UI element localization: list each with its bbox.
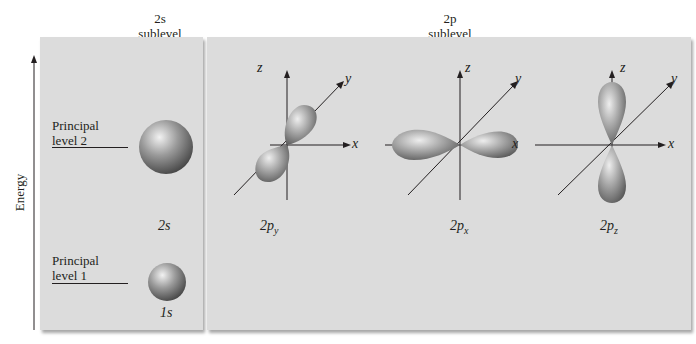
orbital-2px-lobe-right — [460, 132, 518, 158]
orbital-2px-lobe-left — [392, 130, 460, 160]
axis-label-x-py: x — [352, 136, 358, 152]
orbital-2py-label: 2py — [260, 218, 278, 236]
orbital-2py-diagram — [220, 60, 360, 210]
orbital-2py-lobe-back — [285, 105, 317, 145]
axis-label-x-pz: x — [668, 136, 674, 152]
axis-label-y-py: y — [345, 71, 351, 87]
axis-label-y-pz: y — [671, 71, 677, 87]
energy-axis-label: Energy — [12, 168, 27, 218]
orbital-2px-label: 2px — [450, 218, 468, 236]
orbital-2s-label: 2s — [158, 218, 170, 234]
orbital-2pz-diagram — [530, 60, 690, 210]
orbital-2px-diagram — [380, 60, 530, 210]
orbital-2pz-label: 2pz — [600, 218, 618, 236]
axis-label-z-pz: z — [620, 60, 625, 76]
axis-label-z-px: z — [465, 60, 470, 76]
level-2-line — [52, 147, 128, 148]
orbital-2s-sphere — [138, 119, 194, 175]
orbital-2pz-lobe-bottom — [598, 145, 626, 203]
level-1-label: Principal level 1 — [52, 253, 99, 283]
level-2-label: Principal level 2 — [52, 118, 99, 148]
orbital-1s-label: 1s — [160, 305, 172, 321]
orbital-2pz-lobe-top — [598, 82, 626, 145]
level-1-line — [52, 283, 128, 284]
energy-axis-arrow — [30, 55, 40, 335]
header-2s-label: 2s — [154, 11, 166, 26]
axis-label-z-py: z — [257, 60, 262, 76]
header-2p-label: 2p — [420, 11, 480, 26]
orbital-2py-lobe-front — [255, 145, 289, 182]
axis-label-x-px: x — [512, 136, 518, 152]
orbital-1s-sphere — [147, 262, 187, 302]
axis-label-y-px: y — [515, 71, 521, 87]
